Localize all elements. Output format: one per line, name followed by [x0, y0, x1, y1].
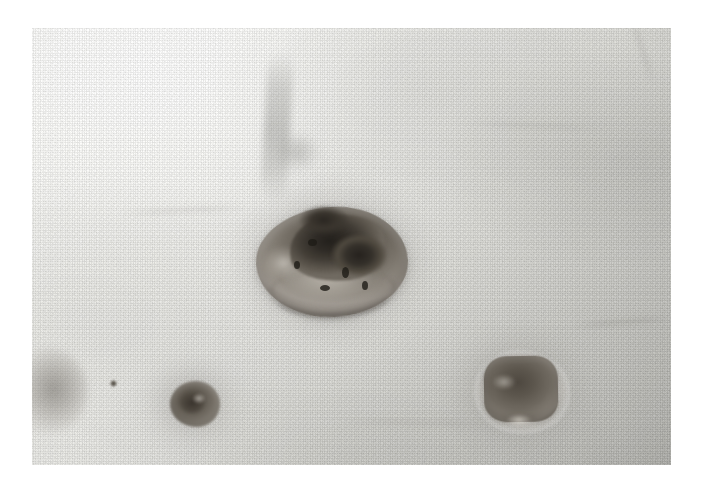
clinical-skin-photograph	[32, 28, 671, 465]
page-root	[0, 0, 703, 488]
photo-vignette	[32, 28, 671, 465]
